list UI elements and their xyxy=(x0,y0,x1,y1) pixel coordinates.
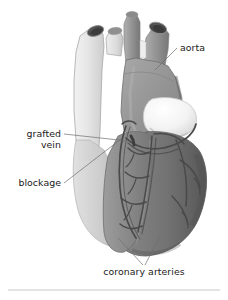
label-grafted-vein-line1: grafted xyxy=(27,128,61,139)
label-coronary-arteries: coronary arteries xyxy=(103,266,184,277)
label-aorta: aorta xyxy=(180,42,205,53)
carotid-lumen xyxy=(126,12,138,18)
left-common-carotid xyxy=(124,13,140,62)
vessel-notch xyxy=(140,40,146,58)
label-grafted-vein-line2: vein xyxy=(41,139,61,150)
heart-anatomy-illustration: aorta grafted vein blockage coronary art… xyxy=(0,0,228,300)
figure-container: aorta grafted vein blockage coronary art… xyxy=(0,0,228,300)
label-blockage: blockage xyxy=(18,177,61,188)
